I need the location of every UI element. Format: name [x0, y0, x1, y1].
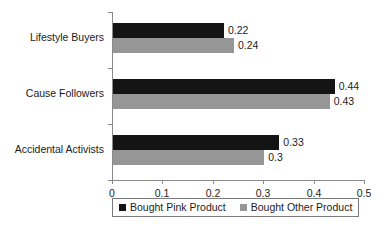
bar-other-accidental-activists — [113, 150, 264, 165]
legend-label-pink: Bought Pink Product — [130, 201, 226, 213]
legend-item-other: Bought Other Product — [240, 201, 353, 213]
bar-other-cause-followers — [113, 94, 330, 109]
category-axis-labels: Lifestyle Buyers Cause Followers Acciden… — [0, 12, 108, 180]
y-axis-tick-top — [108, 12, 112, 13]
category-label-1: Cause Followers — [0, 87, 104, 99]
bar-value-pink-cause-followers: 0.44 — [339, 79, 359, 94]
legend-label-other: Bought Other Product — [251, 201, 353, 213]
bar-other-lifestyle-buyers — [113, 38, 234, 53]
category-label-2: Accidental Activists — [0, 143, 104, 155]
legend-item-pink: Bought Pink Product — [119, 201, 226, 213]
category-label-0: Lifestyle Buyers — [0, 31, 104, 43]
x-axis-tick-4 — [314, 180, 315, 184]
y-axis-tick-2 — [108, 124, 112, 125]
bar-pink-cause-followers — [113, 79, 335, 94]
bar-value-other-cause-followers: 0.43 — [334, 94, 354, 109]
x-axis-tick-1 — [162, 180, 163, 184]
bar-value-pink-lifestyle-buyers: 0.22 — [228, 23, 248, 38]
y-axis-tick-1 — [108, 68, 112, 69]
x-axis-tick-0 — [112, 180, 113, 184]
x-axis-tick-2 — [213, 180, 214, 184]
x-axis-line — [112, 180, 365, 181]
bar-chart: Lifestyle Buyers Cause Followers Acciden… — [0, 0, 386, 234]
bar-value-pink-accidental-activists: 0.33 — [283, 135, 303, 150]
x-axis-tick-5 — [364, 180, 365, 184]
x-axis-tick-3 — [263, 180, 264, 184]
plot-area: 0 0.1 0.2 0.3 0.4 0.5 0.22 0.24 0.44 0.4… — [112, 12, 365, 180]
bar-value-other-accidental-activists: 0.3 — [268, 150, 283, 165]
legend-swatch-gray-icon — [240, 204, 247, 211]
bar-pink-lifestyle-buyers — [113, 23, 224, 38]
legend-swatch-pink-icon — [119, 204, 126, 211]
bar-pink-accidental-activists — [113, 135, 279, 150]
chart-legend: Bought Pink Product Bought Other Product — [112, 198, 359, 217]
bar-value-other-lifestyle-buyers: 0.24 — [238, 38, 258, 53]
